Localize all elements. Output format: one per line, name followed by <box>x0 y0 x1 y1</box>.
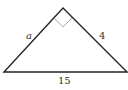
right-leg-label: 4 <box>99 30 105 41</box>
left-leg-label: a <box>26 30 32 41</box>
hypotenuse-label: 15 <box>58 75 71 86</box>
triangle-diagram: a 4 15 <box>0 0 128 90</box>
right-angle-marker <box>54 18 72 27</box>
triangle-shape <box>4 8 127 72</box>
